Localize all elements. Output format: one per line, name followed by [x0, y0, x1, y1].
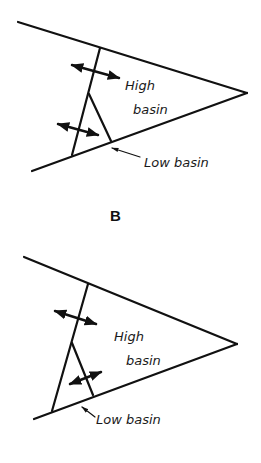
- leader-arrow-icon: [82, 407, 95, 417]
- high-basin-label-line2: basin: [126, 353, 161, 368]
- basin-diagram-figure: High basin Low basin B High basin Low ba…: [0, 0, 261, 463]
- high-basin-label-line2: basin: [133, 102, 168, 117]
- panel-label-b: B: [110, 207, 121, 224]
- double-arrow-icon: [55, 311, 96, 324]
- inner-divide-line: [72, 343, 93, 395]
- low-basin-label: Low basin: [144, 155, 209, 170]
- low-basin-label: Low basin: [96, 412, 161, 427]
- main-divide-line: [72, 48, 100, 155]
- high-basin-label-line1: High: [114, 329, 144, 344]
- main-divide-line: [52, 284, 88, 411]
- top-diagram: [18, 22, 247, 171]
- high-basin-label-line1: High: [125, 78, 155, 93]
- leader-arrow-icon: [112, 148, 140, 157]
